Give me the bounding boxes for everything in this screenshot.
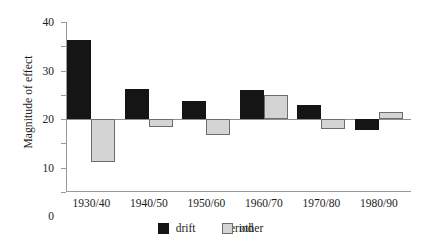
bar-drift-1940-50 (125, 89, 149, 119)
bar-drift-1970-80 (297, 105, 321, 120)
y-tick-label: 40 (43, 16, 55, 28)
x-tick-label: 1980/90 (360, 197, 398, 209)
bar-group (297, 22, 345, 192)
y-tick-mark: 10 (61, 95, 66, 96)
legend-label-other: other (240, 222, 264, 234)
bar-other-1930-40 (91, 119, 115, 162)
bar-other-1960-70 (264, 95, 288, 119)
y-tick-mark: 0 (61, 119, 66, 120)
x-tick-label: 1960/70 (245, 197, 283, 209)
legend-swatch-other (222, 223, 233, 234)
y-tick-mark: −10 (61, 143, 66, 144)
bar-drift-1950-60 (182, 101, 206, 119)
y-tick-mark: −30 (61, 192, 66, 193)
x-tick-label: 1950/60 (187, 197, 225, 209)
bar-drift-1980-90 (355, 119, 379, 129)
y-tick-label: 30 (43, 65, 55, 77)
bar-other-1970-80 (321, 119, 345, 129)
x-tick-label: 1940/50 (130, 197, 168, 209)
bar-group (67, 22, 115, 192)
y-axis-title: Magnitude of effect (22, 27, 34, 177)
y-tick-label: 20 (43, 113, 55, 125)
y-tick-mark: 40 (61, 22, 66, 23)
legend-item-other: other (222, 222, 264, 234)
y-tick-mark: −20 (61, 168, 66, 169)
bar-chart-figure: Magnitude of effect 403020100−10−20−30 1… (0, 0, 421, 251)
y-tick-mark: 20 (61, 71, 66, 72)
bar-drift-1960-70 (240, 90, 264, 119)
bar-other-1950-60 (206, 119, 230, 135)
bar-other-1980-90 (379, 112, 403, 119)
y-tick-mark: 30 (61, 46, 66, 47)
bar-group (182, 22, 230, 192)
x-tick-label: 1970/80 (302, 197, 340, 209)
bar-group (240, 22, 288, 192)
y-tick-label: 0 (48, 210, 54, 222)
legend-label-drift: drift (176, 222, 196, 234)
chart-legend: drift other (0, 222, 421, 234)
bar-group (355, 22, 403, 192)
y-tick-label: 10 (43, 162, 55, 174)
bar-group (125, 22, 173, 192)
bar-other-1940-50 (149, 119, 173, 127)
legend-swatch-drift (158, 223, 169, 234)
bar-drift-1930-40 (67, 40, 91, 119)
x-tick-label: 1930/40 (72, 197, 110, 209)
plot-area: 403020100−10−20−30 1930/401940/501950/60… (66, 22, 411, 192)
legend-item-drift: drift (158, 222, 196, 234)
